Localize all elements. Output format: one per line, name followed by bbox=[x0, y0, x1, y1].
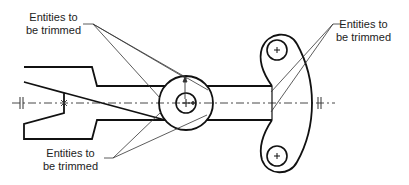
lever-bottom-hole-center bbox=[274, 153, 280, 159]
annotation-top-left: Entities to be trimmed bbox=[26, 11, 81, 37]
annotation-bottom-left: Entities to be trimmed bbox=[43, 147, 98, 173]
leader-lines-bottom-left bbox=[104, 112, 207, 158]
annotation-line2: be trimmed bbox=[26, 24, 81, 37]
annotation-line1: Entities to bbox=[26, 11, 81, 24]
annotation-line2: be trimmed bbox=[43, 160, 98, 173]
centerline-end-mark-left bbox=[20, 97, 23, 109]
annotation-top-right: Entities to be trimmed bbox=[336, 18, 391, 44]
lever-top-hole-center bbox=[274, 47, 280, 53]
hub-center-mark bbox=[182, 99, 190, 107]
leader-lines-top-right bbox=[271, 24, 341, 112]
annotation-line1: Entities to bbox=[43, 147, 98, 160]
annotation-line1: Entities to bbox=[336, 18, 391, 31]
annotation-line2: be trimmed bbox=[336, 31, 391, 44]
